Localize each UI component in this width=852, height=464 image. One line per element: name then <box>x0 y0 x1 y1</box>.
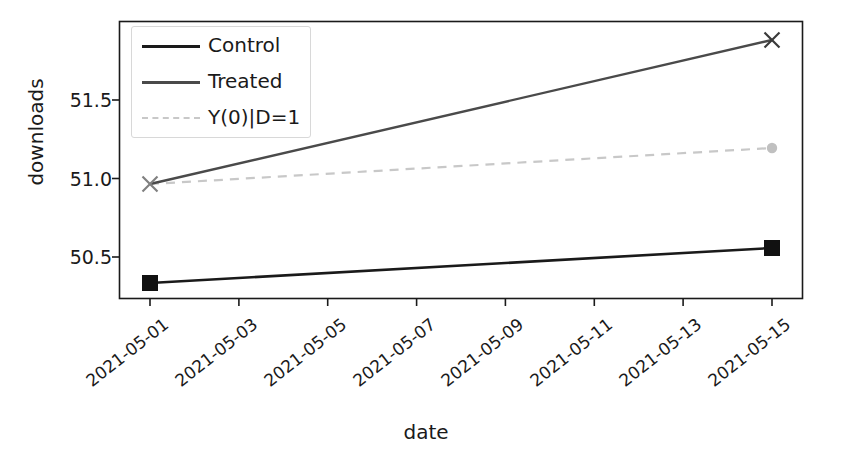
x-tick-labels: 2021-05-01 2021-05-03 2021-05-05 2021-05… <box>0 0 852 464</box>
y-axis-label: downloads <box>24 62 48 202</box>
x-axis-label: date <box>0 420 852 444</box>
matplotlib-figure: Control Treated Y(0)|D=1 51.5 51.0 50.5 … <box>0 0 852 464</box>
